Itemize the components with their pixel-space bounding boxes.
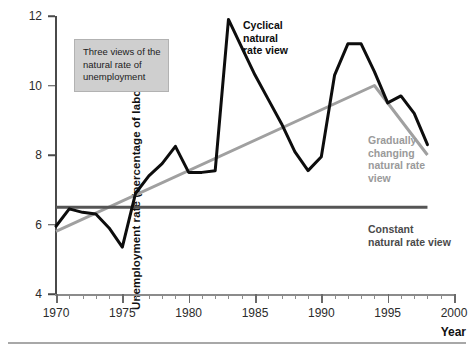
x-tick-minor xyxy=(215,294,216,299)
legend-caption-box: Three views of the natural rate of unemp… xyxy=(74,39,169,92)
x-tick-major xyxy=(388,294,390,303)
x-tick-minor xyxy=(348,294,349,299)
annotation-gradual-line-4: view xyxy=(368,172,425,185)
annotation-cyclical-line-1: Cyclical xyxy=(243,19,288,32)
x-tick-label: 1985 xyxy=(242,306,269,320)
x-tick-label: 1995 xyxy=(374,306,401,320)
y-tick-label: 12 xyxy=(29,9,42,23)
annotation-cyclical-natural-rate: Cyclical natural rate view xyxy=(243,19,288,57)
annotation-gradually-changing-natural-rate: Gradually changing natural rate view xyxy=(368,134,425,184)
legend-line-1: Three views of the xyxy=(83,46,161,59)
x-tick-major xyxy=(189,294,191,303)
x-tick-minor xyxy=(427,294,428,299)
annotation-constant-natural-rate: Constant natural rate view xyxy=(368,223,451,248)
annotation-constant-line-1: Constant xyxy=(368,223,451,236)
bottom-divider xyxy=(8,342,466,344)
x-tick-minor xyxy=(374,294,375,299)
annotation-cyclical-line-3: rate view xyxy=(243,44,288,57)
x-tick-minor xyxy=(414,294,415,299)
x-tick-minor xyxy=(96,294,97,299)
x-tick-minor xyxy=(282,294,283,299)
x-tick-minor xyxy=(136,294,137,299)
x-tick-minor xyxy=(175,294,176,299)
annotation-gradual-line-3: natural rate xyxy=(368,159,425,172)
x-tick-label: 1975 xyxy=(109,306,136,320)
x-tick-label: 1980 xyxy=(175,306,202,320)
annotation-gradual-line-1: Gradually xyxy=(368,134,425,147)
x-tick-label: 1990 xyxy=(308,306,335,320)
x-tick-minor xyxy=(109,294,110,299)
x-axis-title: Year xyxy=(441,325,466,339)
x-tick-minor xyxy=(228,294,229,299)
x-tick-minor xyxy=(83,294,84,299)
annotation-cyclical-line-2: natural xyxy=(243,32,288,45)
annotation-constant-line-2: natural rate view xyxy=(368,236,451,249)
x-tick-minor xyxy=(308,294,309,299)
x-tick-major xyxy=(454,294,456,303)
annotation-gradual-line-2: changing xyxy=(368,147,425,160)
y-tick-mark xyxy=(48,15,55,17)
x-tick-minor xyxy=(162,294,163,299)
x-tick-minor xyxy=(268,294,269,299)
y-tick-label: 10 xyxy=(29,79,42,93)
x-tick-minor xyxy=(69,294,70,299)
x-tick-minor xyxy=(441,294,442,299)
x-tick-minor xyxy=(149,294,150,299)
x-tick-major xyxy=(321,294,323,303)
y-tick-mark xyxy=(48,293,55,295)
y-tick-label: 4 xyxy=(35,287,42,301)
x-tick-minor xyxy=(401,294,402,299)
y-tick-label: 8 xyxy=(35,148,42,162)
x-tick-major xyxy=(56,294,58,303)
y-tick-mark xyxy=(48,85,55,87)
legend-line-3: unemployment xyxy=(83,71,161,84)
chart-figure: Unemployment rate (percentage of labour … xyxy=(0,0,474,351)
x-tick-minor xyxy=(202,294,203,299)
y-tick-mark xyxy=(48,154,55,156)
x-tick-minor xyxy=(361,294,362,299)
x-tick-label: 1970 xyxy=(43,306,70,320)
x-tick-major xyxy=(255,294,257,303)
legend-line-2: natural rate of xyxy=(83,59,161,72)
x-tick-minor xyxy=(242,294,243,299)
x-tick-minor xyxy=(295,294,296,299)
x-tick-label: 2000 xyxy=(441,306,468,320)
y-tick-label: 6 xyxy=(35,218,42,232)
x-tick-minor xyxy=(335,294,336,299)
y-tick-mark xyxy=(48,224,55,226)
x-tick-major xyxy=(122,294,124,303)
